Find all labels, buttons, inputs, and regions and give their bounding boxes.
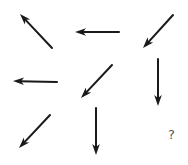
arrow-down-left-icon	[85, 65, 112, 94]
arrow-down-left-icon	[23, 115, 50, 144]
arrow-down-left-icon	[147, 15, 173, 44]
arrow-puzzle-grid	[0, 0, 188, 165]
missing-cell-question-mark: ?	[168, 128, 175, 141]
arrow-left-icon	[19, 81, 57, 82]
arrow-up-left-icon	[24, 18, 52, 48]
arrow-group	[13, 14, 173, 155]
